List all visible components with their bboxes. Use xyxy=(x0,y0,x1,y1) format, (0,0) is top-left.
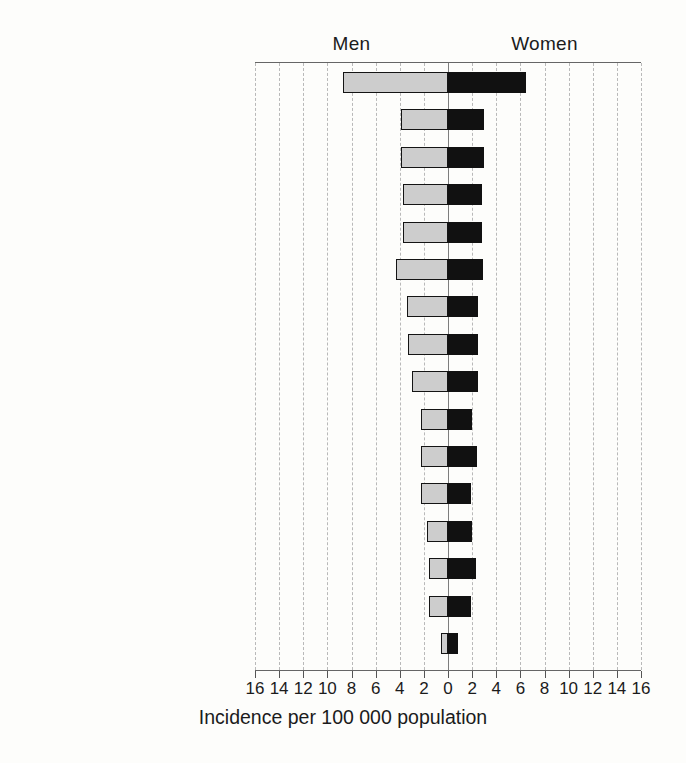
axis-tick xyxy=(545,671,546,678)
axis-tick xyxy=(593,671,594,678)
axis-tick xyxy=(520,671,521,678)
bar-women xyxy=(448,334,478,355)
chart-row: The Netherlands xyxy=(255,326,641,363)
axis-tick xyxy=(569,671,570,678)
chart-row: Japan, Hiroshima xyxy=(255,550,641,587)
axis-tick-label: 14 xyxy=(270,680,289,697)
bar-men xyxy=(343,72,448,93)
bar-men xyxy=(429,596,448,617)
axis-tick xyxy=(496,671,497,678)
bar-men xyxy=(412,371,448,392)
bar-men xyxy=(441,633,448,654)
axis-tick-label: 8 xyxy=(347,680,356,697)
chart-row: Czech Republic xyxy=(255,401,641,438)
bar-men xyxy=(403,184,448,205)
axis-tick xyxy=(424,671,425,678)
axis-tick-label: 12 xyxy=(583,680,602,697)
axis-tick-label: 6 xyxy=(371,680,380,697)
bar-women xyxy=(448,72,526,93)
bar-women xyxy=(448,296,478,317)
bar-women xyxy=(448,259,483,280)
bar-women xyxy=(448,596,471,617)
axis-tick xyxy=(400,671,401,678)
chart-row: Hong Kong xyxy=(255,588,641,625)
axis-tick-label: 6 xyxy=(516,680,525,697)
axis-tick xyxy=(376,671,377,678)
gridline xyxy=(641,63,642,670)
chart-row: Israel: Jews xyxy=(255,475,641,512)
bar-men xyxy=(421,483,448,504)
axis-tick xyxy=(327,671,328,678)
axis-tick-label: 10 xyxy=(559,680,578,697)
axis-tick-label: 12 xyxy=(294,680,313,697)
chart-row: India, Madras xyxy=(255,625,641,662)
axis-tick-label: 8 xyxy=(540,680,549,697)
women-column-header: Women xyxy=(511,33,578,55)
bar-women xyxy=(448,184,482,205)
bar-men xyxy=(421,446,448,467)
bar-women xyxy=(448,409,472,430)
chart-row: Denmark xyxy=(255,363,641,400)
chart-row: US, SEER: Black xyxy=(255,64,641,101)
bar-women xyxy=(448,222,482,243)
bar-men xyxy=(407,296,448,317)
axis-tick xyxy=(617,671,618,678)
axis-tick-label: 16 xyxy=(632,680,651,697)
bar-women xyxy=(448,633,458,654)
bar-men xyxy=(401,109,448,130)
bar-men xyxy=(408,334,448,355)
chart-row: US, SEER: White xyxy=(255,176,641,213)
bar-women xyxy=(448,483,471,504)
axis-tick-label: 10 xyxy=(318,680,337,697)
axis-tick xyxy=(303,671,304,678)
diverging-bar-chart: Men Women US, SEER: BlackNew ZealandCana… xyxy=(0,0,686,763)
axis-tick xyxy=(255,671,256,678)
plot-area: US, SEER: BlackNew ZealandCanadaUS, SEER… xyxy=(255,62,641,671)
bar-men xyxy=(403,222,448,243)
bar-women xyxy=(448,446,477,467)
axis-tick-label: 2 xyxy=(467,680,476,697)
axis-tick-label: 16 xyxy=(246,680,265,697)
chart-row: Norway xyxy=(255,214,641,251)
axis-tick xyxy=(472,671,473,678)
chart-row: Canada xyxy=(255,139,641,176)
chart-row: Poland, Warsaw City xyxy=(255,513,641,550)
bar-men xyxy=(421,409,448,430)
bar-men xyxy=(429,558,448,579)
axis-tick xyxy=(448,671,449,678)
bar-women xyxy=(448,371,478,392)
chart-row: New Zealand xyxy=(255,101,641,138)
bar-women xyxy=(448,558,476,579)
axis-tick-label: 2 xyxy=(419,680,428,697)
axis-tick-label: 4 xyxy=(395,680,404,697)
axis-tick-label: 0 xyxy=(443,680,452,697)
bar-men xyxy=(396,259,448,280)
bar-women xyxy=(448,109,484,130)
axis-tick xyxy=(641,671,642,678)
axis-tick-label: 4 xyxy=(492,680,501,697)
men-column-header: Men xyxy=(333,33,371,55)
axis-tick-label: 14 xyxy=(607,680,626,697)
bar-women xyxy=(448,147,484,168)
axis-tick xyxy=(279,671,280,678)
bar-men xyxy=(401,147,448,168)
bar-women xyxy=(448,521,472,542)
axis-tick xyxy=(352,671,353,678)
bar-men xyxy=(427,521,448,542)
chart-row: England and Wales xyxy=(255,288,641,325)
chart-row: Germany, Saarland xyxy=(255,438,641,475)
chart-row: Finland xyxy=(255,251,641,288)
x-axis-title: Incidence per 100 000 population xyxy=(0,706,686,729)
